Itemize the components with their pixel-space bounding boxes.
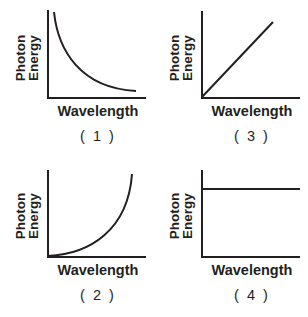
y-axis-label: PhotonEnergy [166, 188, 196, 244]
x-axis-label: Wavelength [202, 262, 302, 278]
increasing-curve [48, 174, 132, 256]
graph-number-label: ( 3 ) [202, 128, 302, 144]
graph-panel-3: PhotonEnergy Wavelength ( 3 ) [154, 0, 308, 158]
x-axis-label: Wavelength [202, 103, 302, 119]
x-axis-label: Wavelength [48, 103, 148, 119]
y-axis-label: PhotonEnergy [12, 30, 42, 86]
graph-number-label: ( 1 ) [48, 128, 148, 144]
graph-panel-2: PhotonEnergy Wavelength ( 2 ) [0, 158, 154, 317]
increasing-line [202, 22, 273, 97]
graph-panel-1: PhotonEnergy Wavelength ( 1 ) [0, 0, 154, 158]
y-axis-label: PhotonEnergy [12, 188, 42, 244]
graph-panel-4: PhotonEnergy Wavelength ( 4 ) [154, 158, 308, 317]
graph-number-label: ( 4 ) [202, 287, 302, 303]
y-axis-label: PhotonEnergy [166, 30, 196, 86]
graph-number-label: ( 2 ) [48, 287, 148, 303]
decreasing-curve [54, 12, 136, 91]
x-axis-label: Wavelength [48, 262, 148, 278]
